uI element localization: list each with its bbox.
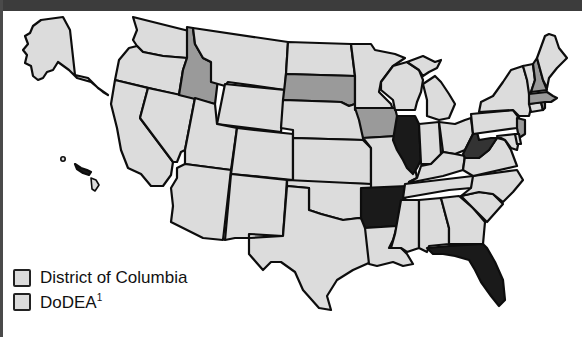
- state-alaska: [23, 17, 108, 95]
- legend-label-dodea: DoDEA1: [40, 292, 102, 313]
- legend-item-district-of-columbia: District of Columbia: [13, 266, 187, 290]
- state-arizona: [171, 164, 231, 240]
- legend-label-dodea-text: DoDEA: [40, 292, 97, 311]
- state-pennsylvania: [471, 110, 519, 134]
- state-nebraska: [281, 100, 365, 140]
- state-new-york: [479, 66, 531, 116]
- state-wyoming: [217, 84, 285, 132]
- state-kansas: [293, 138, 371, 184]
- legend-swatch-dodea: [13, 293, 31, 311]
- state-michigan-lower: [423, 76, 455, 120]
- state-massachusetts: [529, 92, 557, 104]
- state-hawaii-3: [91, 178, 99, 191]
- legend-footnote-marker: 1: [97, 292, 103, 303]
- state-hawaii-2: [75, 164, 91, 175]
- legend: District of Columbia DoDEA1: [13, 266, 187, 314]
- legend-item-dodea: DoDEA1: [13, 290, 187, 314]
- state-florida: [427, 244, 505, 306]
- state-hawaii-1: [61, 157, 65, 161]
- legend-label-dc: District of Columbia: [40, 268, 187, 288]
- state-colorado: [231, 128, 293, 180]
- state-north-dakota: [286, 42, 355, 76]
- legend-swatch-dc: [13, 269, 31, 287]
- state-new-mexico: [225, 174, 287, 240]
- state-delaware: [515, 134, 521, 144]
